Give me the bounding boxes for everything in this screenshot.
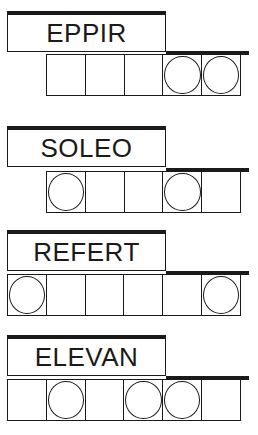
answer-cells <box>46 171 241 213</box>
answer-cell[interactable] <box>85 171 125 213</box>
answer-cell[interactable] <box>201 379 241 421</box>
answer-cell[interactable] <box>124 171 164 213</box>
answer-cell-circled[interactable] <box>7 274 47 316</box>
answer-cell-circled[interactable] <box>162 379 202 421</box>
answer-cell[interactable] <box>162 274 202 316</box>
scrambled-word-banner: REFERT <box>7 230 166 271</box>
answer-cell-circled[interactable] <box>123 379 163 421</box>
answer-cells <box>7 274 241 316</box>
answer-cell-circled[interactable] <box>201 274 241 316</box>
answer-cell[interactable] <box>7 379 47 421</box>
answer-cell[interactable] <box>85 379 125 421</box>
jumble-puzzle-4: ELEVAN <box>0 0 258 100</box>
scrambled-word-banner: ELEVAN <box>7 335 166 376</box>
answer-cells <box>7 379 241 421</box>
answer-cell[interactable] <box>85 274 125 316</box>
answer-cell-circled[interactable] <box>46 379 86 421</box>
answer-cell[interactable] <box>123 274 163 316</box>
scrambled-word-banner: SOLEO <box>7 126 166 167</box>
answer-cell-circled[interactable] <box>162 171 202 213</box>
answer-cell[interactable] <box>46 274 86 316</box>
answer-cell[interactable] <box>201 171 241 213</box>
answer-cell-circled[interactable] <box>46 171 86 213</box>
